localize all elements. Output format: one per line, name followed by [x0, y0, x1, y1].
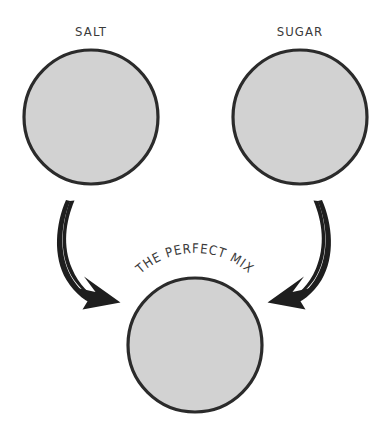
node-sugar[interactable]: SUGAR [233, 24, 367, 184]
sugar-label: SUGAR [277, 24, 324, 39]
salt-arrowhead [78, 277, 121, 310]
mix-label: THE PERFECT MIX [132, 241, 257, 277]
salt-label: SALT [75, 24, 107, 39]
sugar-arrowhead [268, 277, 311, 310]
mix-circle[interactable] [128, 278, 262, 412]
diagram-canvas: SALT SUGAR THE PERFECT MIX [0, 0, 388, 444]
sugar-circle[interactable] [233, 50, 367, 184]
arrow-salt-to-mix [57, 200, 120, 310]
node-mix[interactable]: THE PERFECT MIX [128, 241, 262, 412]
arrow-sugar-to-mix [268, 200, 331, 310]
node-salt[interactable]: SALT [24, 24, 158, 184]
salt-circle[interactable] [24, 50, 158, 184]
diagram-svg: SALT SUGAR THE PERFECT MIX [0, 0, 388, 444]
mix-label-textpath: THE PERFECT MIX [132, 241, 257, 277]
